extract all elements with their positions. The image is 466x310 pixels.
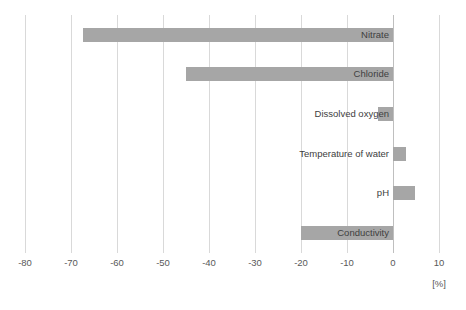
- x-tick-label: -80: [18, 256, 32, 269]
- bar-row: pH: [25, 174, 439, 214]
- x-axis: -80-70-60-50-40-30-20-10010: [25, 256, 439, 276]
- x-tick-label: -60: [110, 256, 124, 269]
- bar-chart: NitrateChlorideDissolved oxygenTemperatu…: [0, 0, 466, 310]
- bar-row: Nitrate: [25, 15, 439, 55]
- gridline: [439, 15, 440, 253]
- bar-row: Dissolved oxygen: [25, 94, 439, 134]
- x-tick-label: 10: [434, 256, 445, 269]
- x-tick-label: -30: [248, 256, 262, 269]
- bar-row: Temperature of water: [25, 134, 439, 174]
- category-label: Conductivity: [337, 227, 393, 239]
- x-tick-label: 0: [390, 256, 395, 269]
- x-tick-label: -70: [64, 256, 78, 269]
- bar[interactable]: [393, 186, 415, 200]
- bar[interactable]: [393, 147, 406, 161]
- bar-row: Conductivity: [25, 213, 439, 253]
- category-label: Temperature of water: [299, 148, 393, 160]
- bar-row: Chloride: [25, 55, 439, 95]
- x-tick-label: -10: [340, 256, 354, 269]
- category-label: Dissolved oxygen: [315, 108, 393, 120]
- category-label: Nitrate: [361, 29, 393, 41]
- x-tick-label: -20: [294, 256, 308, 269]
- category-label: Chloride: [354, 68, 393, 80]
- category-label: pH: [377, 187, 393, 199]
- x-axis-unit-label: [%]: [432, 278, 446, 289]
- x-tick-label: -40: [202, 256, 216, 269]
- plot-area: NitrateChlorideDissolved oxygenTemperatu…: [25, 15, 439, 253]
- bar[interactable]: [83, 28, 394, 42]
- x-tick-label: -50: [156, 256, 170, 269]
